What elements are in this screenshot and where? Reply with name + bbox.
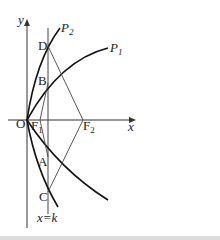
bottom-border <box>0 236 220 240</box>
curve-p2-label: P2 <box>60 20 74 37</box>
y-axis-arrow <box>24 19 30 26</box>
focus-f1-label: F1 <box>31 118 43 135</box>
x-axis-label: x <box>127 119 134 134</box>
focus-f2-label: F2 <box>83 118 95 135</box>
line-x-equals-k-label: x=k <box>36 210 58 225</box>
segment-f2-c <box>48 120 83 192</box>
y-axis-label: y <box>16 12 24 27</box>
conic-diagram: y x O P2 P1 D B A C F1 F2 x=k <box>0 0 220 240</box>
point-b-label: B <box>38 73 47 88</box>
origin-label: O <box>16 116 25 131</box>
segment-b-f1 <box>40 83 48 120</box>
point-a-label: A <box>38 154 48 169</box>
point-d-label: D <box>38 38 47 53</box>
point-c-label: C <box>39 189 48 204</box>
curve-p1-label: P1 <box>109 40 122 57</box>
